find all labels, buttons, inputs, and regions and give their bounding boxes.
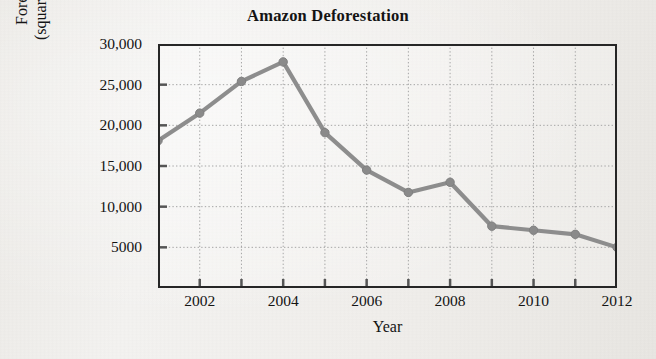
- y-axis-title-line2: (square kilometers): [32, 0, 51, 40]
- x-tick-label-2012: 2012: [602, 292, 633, 310]
- chart-figure: Amazon Deforestation Forest Cleared (squ…: [0, 0, 656, 359]
- plot-frame: [158, 44, 617, 288]
- y-tick-label-15000: 15,000: [99, 157, 142, 175]
- x-axis-tick-labels: 200220042006200820102012: [158, 292, 617, 314]
- x-tick-label-2002: 2002: [184, 292, 215, 310]
- y-tick-label-30000: 30,000: [99, 35, 142, 53]
- y-axis-title-line1: Forest Cleared: [13, 0, 32, 40]
- y-tick-label-10000: 10,000: [99, 198, 142, 216]
- chart-title: Amazon Deforestation: [0, 6, 656, 26]
- y-tick-label-20000: 20,000: [99, 116, 142, 134]
- plot-area: [158, 44, 617, 288]
- x-axis-title: Year: [158, 318, 617, 336]
- x-tick-label-2008: 2008: [435, 292, 466, 310]
- x-tick-label-2006: 2006: [351, 292, 382, 310]
- x-tick-label-2004: 2004: [268, 292, 299, 310]
- y-tick-label-25000: 25,000: [99, 76, 142, 94]
- y-axis-tick-labels: 500010,00015,00020,00025,00030,000: [0, 44, 152, 288]
- y-tick-label-5000: 5000: [111, 238, 142, 256]
- x-tick-label-2010: 2010: [518, 292, 549, 310]
